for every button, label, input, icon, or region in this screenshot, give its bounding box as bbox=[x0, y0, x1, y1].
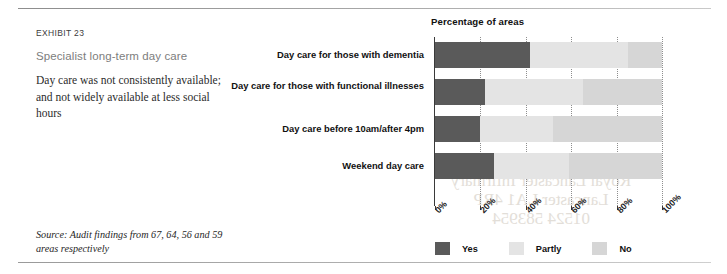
category-label: Weekend day care bbox=[209, 160, 424, 171]
bar-row[interactable] bbox=[435, 42, 662, 68]
chart-plot-area: Day care for those with dementiaDay care… bbox=[435, 40, 662, 203]
legend-label-yes: Yes bbox=[462, 244, 478, 254]
legend-label-no: No bbox=[619, 244, 631, 254]
bar-segment-no[interactable] bbox=[569, 153, 662, 179]
exhibit-source-note: Source: Audit findings from 67, 64, 56 a… bbox=[36, 228, 236, 256]
exhibit-number: EXHIBIT 23 bbox=[36, 28, 221, 38]
bar-segment-yes[interactable] bbox=[435, 42, 530, 68]
top-divider-rule bbox=[18, 8, 711, 9]
stacked-bar-chart: Percentage of areas Education Centre Roy… bbox=[235, 14, 715, 264]
bar-segment-yes[interactable] bbox=[435, 153, 494, 179]
chart-legend: YesPartlyNo bbox=[435, 242, 663, 255]
exhibit-description: Day care was not consistently available;… bbox=[36, 72, 221, 121]
bar-segment-no[interactable] bbox=[583, 79, 662, 105]
bar-segment-partly[interactable] bbox=[530, 42, 628, 68]
legend-swatch-partly bbox=[509, 242, 524, 255]
category-label: Day care for those with functional illne… bbox=[209, 80, 424, 91]
legend-item-no[interactable]: No bbox=[592, 242, 631, 255]
bar-segment-partly[interactable] bbox=[494, 153, 569, 179]
bar-segment-partly[interactable] bbox=[485, 79, 583, 105]
bar-row[interactable] bbox=[435, 153, 662, 179]
gridline-100 bbox=[662, 37, 663, 206]
x-tick-label-100: 100% bbox=[660, 192, 683, 215]
category-label: Day care before 10am/after 4pm bbox=[209, 123, 424, 134]
legend-item-partly[interactable]: Partly bbox=[509, 242, 562, 255]
legend-item-yes[interactable]: Yes bbox=[435, 242, 478, 255]
bar-segment-no[interactable] bbox=[628, 42, 662, 68]
bar-segment-no[interactable] bbox=[553, 116, 662, 142]
bar-row[interactable] bbox=[435, 116, 662, 142]
bar-row[interactable] bbox=[435, 79, 662, 105]
exhibit-page: EXHIBIT 23 Specialist long-term day care… bbox=[0, 0, 727, 274]
bar-segment-partly[interactable] bbox=[480, 116, 553, 142]
legend-swatch-no bbox=[592, 242, 607, 255]
bar-segment-yes[interactable] bbox=[435, 116, 480, 142]
exhibit-text-block: EXHIBIT 23 Specialist long-term day care… bbox=[36, 28, 221, 121]
chart-title: Percentage of areas bbox=[431, 16, 524, 27]
legend-label-partly: Partly bbox=[536, 244, 562, 254]
bar-segment-yes[interactable] bbox=[435, 79, 485, 105]
category-label: Day care for those with dementia bbox=[209, 49, 424, 60]
legend-swatch-yes bbox=[435, 242, 450, 255]
exhibit-title: Specialist long-term day care bbox=[36, 49, 221, 63]
